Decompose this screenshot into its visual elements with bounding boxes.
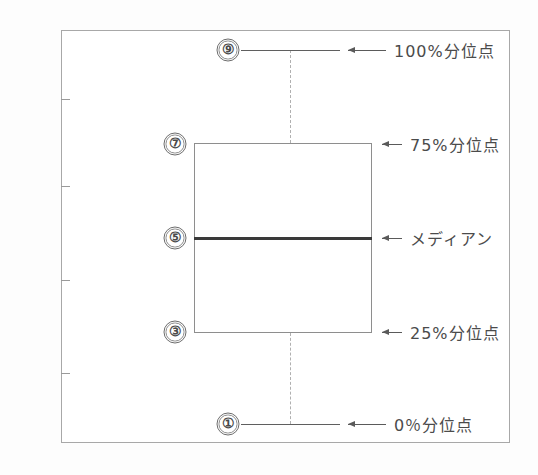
- left-arrow-icon: [382, 138, 402, 150]
- y-tick-8: [61, 99, 70, 100]
- annotation-label-75: 75%分位点: [410, 132, 500, 156]
- annotation-label-0: 0％分位点: [394, 412, 473, 436]
- left-arrow-icon: [382, 326, 402, 338]
- y-tick-4: [61, 280, 70, 281]
- marker-max: ⑨: [217, 39, 240, 62]
- annotation-median: メディアン: [382, 226, 493, 250]
- whisker-upper-line: [290, 50, 291, 143]
- annotation-label-median: メディアン: [410, 226, 493, 250]
- left-arrow-icon: [382, 232, 402, 244]
- annotation-quantile-25: 25%分位点: [382, 320, 500, 344]
- left-arrow-icon: [348, 44, 386, 56]
- marker-q1: ③: [164, 321, 187, 344]
- marker-min: ①: [217, 413, 240, 436]
- left-arrow-icon: [348, 418, 386, 430]
- marker-median: ⑤: [164, 227, 187, 250]
- annotation-label-100: 100%分位点: [394, 38, 495, 62]
- y-tick-2: [61, 373, 70, 374]
- whisker-lower-line: [290, 333, 291, 424]
- annotation-label-25: 25%分位点: [410, 320, 500, 344]
- whisker-cap-max: [241, 50, 340, 51]
- boxplot-figure: 8 6 4 2 ⑨ ⑦ ⑤ ③ ① 100%分位点 75%分位点: [0, 0, 538, 475]
- median-line: [194, 237, 372, 240]
- annotation-quantile-0: 0％分位点: [348, 412, 473, 436]
- annotation-quantile-100: 100%分位点: [348, 38, 495, 62]
- annotation-quantile-75: 75%分位点: [382, 132, 500, 156]
- marker-q3: ⑦: [164, 133, 187, 156]
- y-tick-6: [61, 186, 70, 187]
- whisker-cap-min: [241, 424, 340, 425]
